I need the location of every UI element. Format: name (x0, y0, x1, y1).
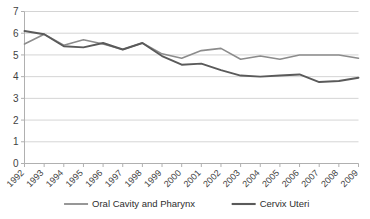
chart-svg: 01234567 1992199319941995199619971998199… (0, 0, 370, 219)
chart-legend: Oral Cavity and PharynxCervix Uteri (64, 198, 309, 209)
x-tick-label: 1994 (44, 168, 65, 189)
line-chart: 01234567 1992199319941995199619971998199… (0, 0, 370, 219)
x-tick-label: 1997 (103, 168, 124, 189)
x-tick-label: 2007 (299, 168, 320, 189)
x-tick-label: 1995 (64, 168, 85, 189)
x-tick-label: 2006 (280, 168, 301, 189)
x-tick-label: 2004 (240, 168, 261, 189)
y-tick-label: 1 (13, 136, 19, 147)
x-tick-label: 1993 (24, 168, 45, 189)
x-tick-label: 2009 (339, 168, 360, 189)
data-series (25, 31, 359, 82)
series-line (25, 31, 359, 82)
y-tick-label: 5 (13, 50, 19, 61)
y-tick-label: 3 (13, 93, 19, 104)
x-tick-label: 2002 (201, 168, 222, 189)
x-tick-labels: 1992199319941995199619971998199920002001… (5, 168, 360, 189)
y-tick-label: 2 (13, 115, 19, 126)
x-tick-label: 1992 (5, 168, 26, 189)
x-tick-label: 2003 (221, 168, 242, 189)
y-tick-labels: 01234567 (13, 6, 19, 169)
x-tick-label: 1998 (123, 168, 144, 189)
legend-label: Oral Cavity and Pharynx (92, 198, 195, 209)
gridlines (25, 12, 359, 164)
x-tick-label: 2008 (319, 168, 340, 189)
y-tick-label: 6 (13, 28, 19, 39)
y-axis (21, 12, 25, 164)
x-axis (25, 164, 359, 168)
x-tick-label: 1999 (142, 168, 163, 189)
x-tick-label: 2005 (260, 168, 281, 189)
legend-label: Cervix Uteri (260, 198, 310, 209)
x-tick-label: 2000 (162, 168, 183, 189)
x-tick-label: 2001 (182, 168, 203, 189)
x-tick-label: 1996 (83, 168, 104, 189)
y-tick-label: 7 (13, 6, 19, 17)
y-tick-label: 4 (13, 71, 19, 82)
